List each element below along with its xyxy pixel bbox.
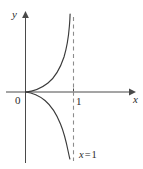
x-axis-label: x	[133, 94, 138, 105]
y-axis-label: y	[12, 9, 17, 20]
x-tick-label-1: 1	[76, 96, 82, 107]
origin-label: 0	[15, 95, 21, 106]
asymptote-variable: x	[79, 149, 84, 160]
curve-upper-branch	[26, 14, 71, 92]
math-figure-graph: y x 0 1 x=1	[0, 0, 143, 169]
asymptote-value: 1	[92, 149, 97, 160]
y-axis-arrowhead	[22, 11, 29, 18]
curve-lower-branch	[26, 92, 70, 159]
y-axis	[22, 11, 29, 163]
asymptote-equals-sign: =	[85, 149, 91, 160]
plot-area	[0, 0, 143, 169]
asymptote-equation-label: x=1	[79, 150, 97, 161]
